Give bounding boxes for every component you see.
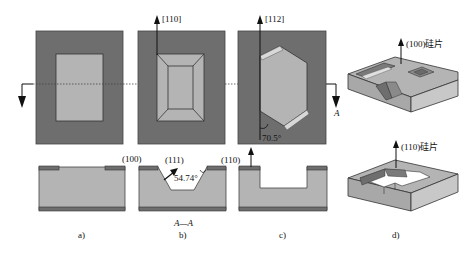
panel-a-top-view xyxy=(36,31,123,144)
plane-label-100: (100) xyxy=(122,154,142,164)
caption-c: c) xyxy=(279,230,286,240)
section-marker: A xyxy=(333,108,340,118)
wafer-label-100: (100)硅片 xyxy=(406,38,444,49)
wafer-100-3d xyxy=(348,57,458,112)
caption-a: a) xyxy=(78,230,85,240)
plane-label-111: (111) xyxy=(165,155,184,165)
wafer-110-3d xyxy=(348,160,458,211)
section-arrow-left-icon xyxy=(18,84,33,108)
wafer-label-110: (110)硅片 xyxy=(401,141,438,152)
panel-c-cross-section xyxy=(239,166,327,211)
normal-arrow-110-icon xyxy=(248,147,254,167)
direction-label-112: [112] xyxy=(265,14,284,24)
direction-label-110: [110] xyxy=(162,14,181,24)
etching-diagram: A [110] [112] 70.5° (100) xyxy=(0,0,461,256)
plane-label-110: (110) xyxy=(221,155,240,165)
angle-label-c: 70.5° xyxy=(262,133,282,143)
panel-a-cross-section xyxy=(39,166,125,211)
caption-b: b) xyxy=(179,230,187,240)
panel-c-top-view xyxy=(238,31,326,144)
section-label: A—A xyxy=(173,218,194,228)
angle-label-b: 54.74° xyxy=(174,173,198,183)
caption-d: d) xyxy=(392,230,400,240)
panel-b-top-view xyxy=(138,31,225,144)
